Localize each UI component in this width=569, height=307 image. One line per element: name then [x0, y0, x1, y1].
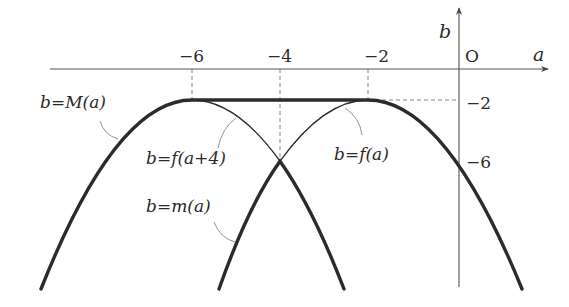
label-m: b=m(a): [146, 198, 211, 215]
curve-M: [41, 100, 522, 289]
tick-a-minus6: −6: [179, 48, 204, 65]
curve-m: [219, 161, 344, 289]
a-axis-label: a: [533, 45, 544, 64]
tick-a-minus2: −2: [364, 48, 389, 65]
label-f: b=f(a): [334, 146, 389, 163]
label-M: b=M(a): [40, 94, 106, 111]
diagram: b O a −6 −4 −2 −2 −6 b=M(a) b=f(a+4) b=f…: [0, 0, 569, 307]
origin-label: O: [465, 48, 479, 65]
label-f-shift: b=f(a+4): [146, 150, 226, 167]
tick-b-minus6: −6: [466, 154, 491, 171]
tick-a-minus4: −4: [267, 48, 292, 65]
b-axis-label: b: [439, 22, 451, 41]
tick-b-minus2: −2: [466, 95, 491, 112]
leader-lines: [100, 108, 362, 242]
